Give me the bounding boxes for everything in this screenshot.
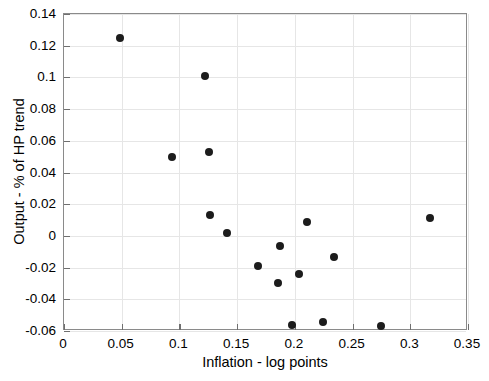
gridline-horizontal <box>64 236 466 237</box>
gridline-horizontal <box>64 141 466 142</box>
y-tick-label: 0.02 <box>30 196 56 211</box>
x-tick-mark <box>237 324 238 330</box>
y-tick-label: 0 <box>48 227 56 242</box>
gridline-vertical <box>295 14 296 329</box>
data-point <box>288 321 296 329</box>
data-point <box>254 262 262 270</box>
y-tick-label: 0.06 <box>30 132 56 147</box>
gridline-vertical <box>179 14 180 329</box>
gridline-vertical <box>122 14 123 329</box>
y-tick-mark <box>64 141 70 142</box>
data-point <box>319 318 327 326</box>
gridline-horizontal <box>64 173 466 174</box>
data-point <box>377 322 385 330</box>
y-tick-label: 0.08 <box>30 101 56 116</box>
x-tick-mark <box>64 324 65 330</box>
x-tick-mark <box>122 324 123 330</box>
gridline-horizontal <box>64 14 466 15</box>
data-point <box>206 211 214 219</box>
data-point <box>205 148 213 156</box>
data-point <box>330 253 338 261</box>
x-tick-label: 0.25 <box>338 336 364 351</box>
data-point <box>201 72 209 80</box>
y-tick-mark <box>64 299 70 300</box>
x-tick-mark <box>410 324 411 330</box>
x-tick-mark <box>353 324 354 330</box>
gridline-vertical <box>410 14 411 329</box>
gridline-horizontal <box>64 331 466 332</box>
y-tick-label: 0.04 <box>30 164 56 179</box>
gridline-horizontal <box>64 77 466 78</box>
gridline-horizontal <box>64 46 466 47</box>
gridline-vertical <box>468 14 469 329</box>
y-tick-label: 0.1 <box>37 69 56 84</box>
y-tick-mark <box>64 77 70 78</box>
gridline-vertical <box>237 14 238 329</box>
data-point <box>274 279 282 287</box>
y-tick-mark <box>64 268 70 269</box>
scatter-plot-figure: -0.06-0.04-0.0200.020.040.060.080.10.120… <box>0 0 489 381</box>
plot-area <box>63 13 467 330</box>
gridline-horizontal <box>64 109 466 110</box>
x-axis-tick-labels: 00.050.10.150.20.250.30.35 <box>63 336 467 356</box>
gridline-vertical <box>353 14 354 329</box>
y-tick-label: 0.14 <box>30 6 56 21</box>
x-tick-label: 0 <box>59 336 67 351</box>
x-axis-title: Inflation - log points <box>63 354 467 370</box>
x-tick-mark <box>468 324 469 330</box>
x-tick-label: 0.15 <box>223 336 249 351</box>
x-tick-label: 0.1 <box>169 336 188 351</box>
data-point <box>116 34 124 42</box>
y-tick-mark <box>64 204 70 205</box>
x-tick-label: 0.05 <box>108 336 134 351</box>
y-tick-mark <box>64 46 70 47</box>
gridline-horizontal <box>64 268 466 269</box>
x-tick-label: 0.35 <box>454 336 480 351</box>
x-tick-mark <box>179 324 180 330</box>
y-tick-mark <box>64 331 70 332</box>
y-tick-mark <box>64 236 70 237</box>
data-point <box>168 153 176 161</box>
data-point <box>295 270 303 278</box>
data-point <box>303 218 311 226</box>
y-tick-mark <box>64 109 70 110</box>
x-tick-label: 0.2 <box>284 336 303 351</box>
y-axis-title: Output - % of HP trend <box>11 13 33 330</box>
gridline-horizontal <box>64 204 466 205</box>
y-tick-label: 0.12 <box>30 37 56 52</box>
x-tick-label: 0.3 <box>400 336 419 351</box>
y-tick-mark <box>64 14 70 15</box>
data-point <box>276 242 284 250</box>
y-tick-mark <box>64 173 70 174</box>
data-point <box>426 214 434 222</box>
gridline-horizontal <box>64 299 466 300</box>
